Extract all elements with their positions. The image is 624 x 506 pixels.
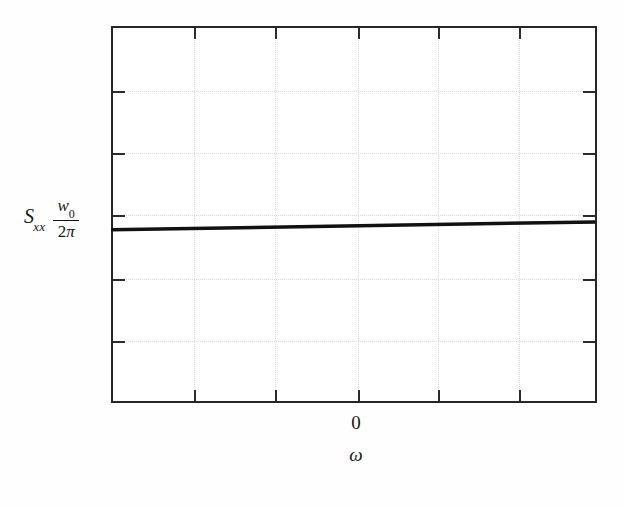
xtick-label-zero: 0 bbox=[326, 412, 386, 434]
fraction-numerator: w0 bbox=[54, 196, 77, 220]
data-line-svg bbox=[113, 28, 595, 401]
y-axis-label-group: Sxx w0 2π bbox=[24, 196, 79, 241]
numerator-symbol: w bbox=[57, 196, 68, 215]
x-axis-title: ω bbox=[326, 444, 386, 466]
numerator-subscript: 0 bbox=[69, 207, 75, 221]
plot-area bbox=[111, 26, 597, 403]
y-axis-symbol-subscript: xx bbox=[33, 219, 45, 234]
psd-figure: Sxx w0 2π 0 ω bbox=[0, 0, 624, 506]
denominator-pi-symbol: π bbox=[66, 222, 75, 241]
denominator-coefficient: 2 bbox=[58, 222, 67, 241]
fraction-denominator: 2π bbox=[55, 221, 78, 241]
y-axis-symbol: Sxx bbox=[24, 205, 46, 232]
psd-flat-line bbox=[111, 222, 595, 230]
y-tick-value-fraction: w0 2π bbox=[53, 196, 79, 241]
